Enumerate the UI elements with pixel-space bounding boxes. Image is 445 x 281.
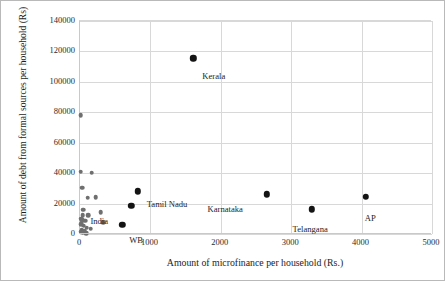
y-tick-label: 80000 xyxy=(54,106,75,116)
point-label-karnataka: Karnataka xyxy=(208,204,243,214)
chart-frame: Amount of debt from formal sources per h… xyxy=(0,0,445,281)
y-tick-label: 60000 xyxy=(54,137,75,147)
data-point xyxy=(83,218,88,223)
gridline-horizontal xyxy=(80,173,432,174)
data-point xyxy=(88,227,93,232)
data-point-ap xyxy=(363,194,369,200)
data-point xyxy=(94,195,99,200)
y-tick-label: 120000 xyxy=(50,45,76,55)
gridline-vertical xyxy=(221,21,222,234)
data-point xyxy=(98,210,103,215)
data-point-tamil-nadu xyxy=(135,188,141,194)
y-axis-tick-labels: 020000400006000080000100000120000140000 xyxy=(1,1,75,281)
data-point xyxy=(85,195,90,200)
point-label-kerala: Kerala xyxy=(202,71,225,81)
gridline-horizontal xyxy=(80,112,432,113)
gridline-vertical xyxy=(432,21,433,234)
gridline-vertical xyxy=(291,21,292,234)
gridline-horizontal xyxy=(80,51,432,52)
point-label-telangana: Telangana xyxy=(293,224,328,234)
gridline-horizontal xyxy=(80,82,432,83)
data-point xyxy=(81,207,86,212)
x-axis-line xyxy=(79,233,431,234)
y-tick-label: 100000 xyxy=(50,76,76,86)
x-tick-label: 4000 xyxy=(352,237,369,247)
data-point-india xyxy=(128,203,134,209)
x-tick-label: 3000 xyxy=(282,237,299,247)
point-label-india: India xyxy=(90,216,108,226)
data-point xyxy=(89,171,94,176)
y-tick-label: 40000 xyxy=(54,167,75,177)
point-label-wb: WB xyxy=(129,235,143,245)
plot-area xyxy=(79,20,431,233)
gridline-horizontal xyxy=(80,143,432,144)
data-point-kerala xyxy=(190,55,196,61)
y-tick-label: 20000 xyxy=(54,198,75,208)
point-label-ap: AP xyxy=(365,213,376,223)
data-point xyxy=(78,169,83,174)
x-tick-label: 1000 xyxy=(141,237,158,247)
x-tick-label: 0 xyxy=(77,237,81,247)
point-label-tamil-nadu: Tamil Nadu xyxy=(147,199,188,209)
gridline-vertical xyxy=(362,21,363,234)
x-axis-title: Amount of microfinance per household (Rs… xyxy=(79,257,431,268)
gridline-horizontal xyxy=(80,21,432,22)
y-tick-label: 0 xyxy=(71,228,75,238)
data-point-karnataka xyxy=(263,191,269,197)
x-tick-label: 5000 xyxy=(423,237,440,247)
data-point-wb xyxy=(119,222,125,228)
data-point xyxy=(78,113,83,118)
data-point xyxy=(80,185,85,190)
data-point-telangana xyxy=(308,206,314,212)
x-tick-label: 2000 xyxy=(211,237,228,247)
y-tick-label: 140000 xyxy=(50,15,76,25)
